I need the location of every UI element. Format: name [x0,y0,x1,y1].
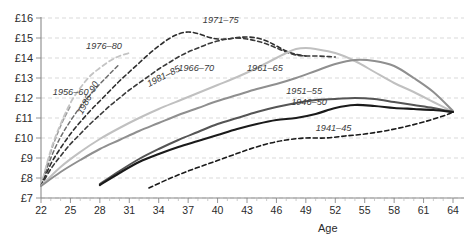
data-series-group [41,32,453,188]
x-tick-label: 43 [241,204,253,216]
y-tick-label: £16 [15,12,33,24]
x-tick-label: 64 [447,204,459,216]
series-label-1971-75: 1971–75 [203,15,240,25]
series-label-1981-85: 1981–85 [145,63,182,89]
series-label-1976-80: 1976–80 [86,41,123,51]
series-line-1946-50 [100,105,453,185]
y-tick-label: £11 [15,112,33,124]
x-tick-label: 31 [123,204,135,216]
y-tick-label: £12 [15,92,33,104]
x-tick-label: 49 [300,204,312,216]
y-tick-label: £14 [15,52,33,64]
series-label-1941-45: 1941–45 [316,123,353,133]
x-tick-label: 58 [388,204,400,216]
y-tick-label: £10 [15,132,33,144]
series-label-1961-65: 1961–65 [247,63,284,73]
y-tick-label: £9 [21,152,33,164]
x-tick-label: 61 [418,204,430,216]
y-tick-label: £7 [21,192,33,204]
x-axis-title: Age [318,222,338,234]
series-line-1941-45 [149,112,453,188]
series-line-1976-80 [41,53,129,186]
x-tick-label: 34 [153,204,165,216]
series-line-1981-85 [41,64,119,186]
series-line-1956-60 [41,60,453,186]
income-by-age-cohort-chart: £7£8£9£10£11£12£13£14£15£16 222528313437… [0,0,469,238]
series-label-1956-60: 1956–60 [53,87,90,97]
y-tick-label: £8 [21,172,33,184]
x-tick-label: 55 [359,204,371,216]
x-tick-label: 25 [65,204,77,216]
y-axis-group: £7£8£9£10£11£12£13£14£15£16 [15,12,41,204]
x-tick-label: 46 [271,204,283,216]
series-label-1986-90: 1986–90 [75,79,101,116]
y-tick-label: £13 [15,72,33,84]
x-tick-label: 40 [212,204,224,216]
x-tick-label: 52 [329,204,341,216]
series-label-1946-50: 1946–50 [291,97,328,107]
x-tick-label: 28 [94,204,106,216]
series-label-1966-70: 1966–70 [178,63,215,73]
series-label-1951-55: 1951–55 [286,86,323,96]
x-tick-label: 37 [182,204,194,216]
x-tick-label: 22 [35,204,47,216]
x-axis-group: 222528313437404346495255586164 [35,198,464,216]
y-tick-label: £15 [15,32,33,44]
chart-svg: £7£8£9£10£11£12£13£14£15£16 222528313437… [0,0,469,238]
